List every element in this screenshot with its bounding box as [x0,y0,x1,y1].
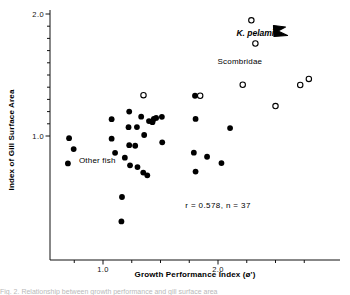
data-point-other-fish [127,162,133,168]
y-tick-label: 1.0 [32,132,44,141]
data-point-other-fish [109,136,115,142]
data-point-scombridae [306,76,311,81]
data-point-other-fish [138,114,144,120]
data-point-other-fish [204,154,210,160]
data-point-other-fish [119,219,125,225]
y-axis-title: Index of Gill Surface Area [7,89,16,190]
stats-label: r = 0.578, n = 37 [185,201,251,210]
data-point-other-fish [193,116,199,122]
scatter-figure: 1.02.0 1.02.0 Other fishK. pelamisScombr… [0,0,350,295]
data-point-other-fish [153,115,159,121]
data-point-other-fish [109,116,115,122]
data-point-scombridae [249,18,254,23]
data-point-scombridae [298,82,303,87]
data-point-other-fish [134,124,140,130]
data-point-other-fish [112,150,118,156]
data-point-other-fish [65,161,71,167]
data-point-other-fish [135,164,141,170]
y-axis-tick-labels: 1.02.0 [32,10,44,141]
data-point-scombridae [141,92,146,97]
data-point-scombridae [240,82,245,87]
data-point-other-fish [219,160,225,166]
x-tick-label: 1.0 [97,265,109,274]
data-point-other-fish [159,114,165,120]
data-point-other-fish [66,135,72,141]
data-point-other-fish [159,139,165,145]
data-point-scombridae [253,41,258,46]
data-point-other-fish [126,142,132,148]
data-point-other-fish [119,194,125,200]
data-point-other-fish [191,150,197,156]
data-point-other-fish [126,109,132,115]
data-point-scombridae [273,103,278,108]
data-point-other-fish [193,169,199,175]
data-point-other-fish [132,143,138,149]
k-pelamis-label: K. pelamis [236,28,279,38]
data-point-other-fish [141,132,147,138]
data-point-other-fish [126,124,132,130]
data-point-other-fish [122,155,128,161]
other-fish-label: Other fish [79,156,116,165]
y-tick-label: 2.0 [32,10,44,19]
scatter-plot-svg: 1.02.0 1.02.0 Other fishK. pelamisScombr… [0,0,350,295]
y-axis-ticks [46,14,51,136]
scombridae-label: Scombridae [218,57,263,66]
data-point-scombridae [197,93,202,98]
data-point-other-fish [227,125,233,131]
data-point-other-fish [71,146,77,152]
x-axis-title: Growth Performance Index (ø') [135,270,256,279]
figure-caption: Fig. 2. Relationship between growth perf… [0,288,350,295]
data-point-other-fish [144,172,150,178]
